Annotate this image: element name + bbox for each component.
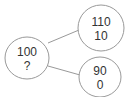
node-bottom-value: 90 [93, 64, 107, 78]
node-root: 100 ? [5, 37, 49, 79]
node-root-value: 100 [17, 45, 37, 59]
node-top-label: 10 [94, 29, 108, 43]
node-root-label: ? [24, 59, 31, 73]
edge-root-to-bottom [48, 66, 80, 75]
node-child-top: 110 10 [78, 5, 124, 51]
tree-diagram: 100 ? 110 10 90 0 [0, 0, 127, 97]
node-child-bottom: 90 0 [79, 57, 121, 97]
edge-root-to-top [48, 30, 79, 43]
node-top-value: 110 [91, 15, 110, 29]
node-bottom-label: 0 [97, 78, 104, 92]
